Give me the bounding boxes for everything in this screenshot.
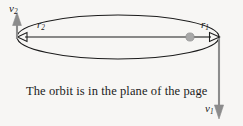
label-v1-subscript: 1	[210, 108, 214, 116]
label-v1: v1	[205, 103, 214, 116]
central-body-dot	[186, 33, 194, 41]
orbit-figure: r1 r2 v1 v2 The orbit is in the plane of…	[0, 0, 243, 126]
velocity-vector-v1-arrowhead	[214, 105, 223, 119]
label-v2: v2	[9, 3, 18, 16]
label-v2-subscript: 2	[14, 8, 18, 16]
label-r2: r2	[37, 19, 45, 32]
label-r1: r1	[201, 19, 209, 32]
label-r1-subscript: 1	[205, 24, 209, 32]
label-r2-subscript: 2	[41, 24, 45, 32]
figure-caption: The orbit is in the plane of the page	[26, 84, 207, 99]
